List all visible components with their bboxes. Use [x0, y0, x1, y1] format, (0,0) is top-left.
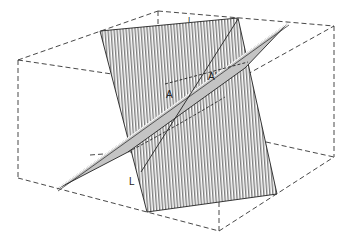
block-diagram: A A' L I [0, 0, 353, 242]
label-top-mark: I [188, 15, 190, 24]
label-l: L [129, 176, 135, 187]
diagram-figure: A A' L I [0, 0, 353, 242]
hatched-plane [100, 18, 277, 212]
label-a-prime: A' [208, 71, 217, 82]
label-a: A [166, 89, 173, 100]
